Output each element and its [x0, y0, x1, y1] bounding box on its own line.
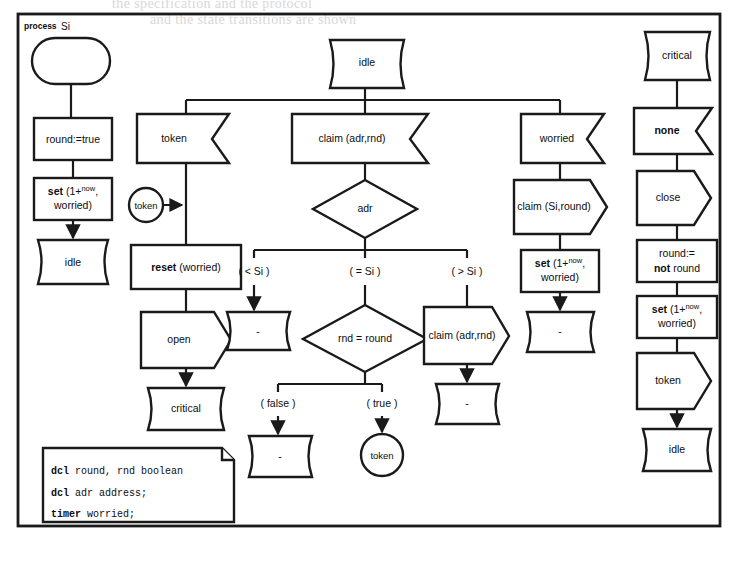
- input-worried-label: worried: [539, 132, 575, 144]
- state-critical-1-label: critical: [171, 402, 201, 414]
- save-token-label: token: [134, 200, 157, 211]
- save-token-true-label: token: [370, 450, 393, 461]
- state-critical-top-label: critical: [662, 49, 692, 61]
- branch-label-eq: ( = Si ): [349, 265, 380, 277]
- branch-label-gt: ( > Si ): [451, 265, 482, 277]
- diagram-canvas: the specification and the protocol and t…: [0, 0, 739, 561]
- start-symbol: [32, 38, 110, 84]
- decision-rnd-round-label: rnd = round: [338, 332, 392, 344]
- task-reset-worried-label: reset (worried): [151, 261, 220, 273]
- task-set-worried-3-line2: worried): [657, 317, 696, 329]
- input-claim-adr-rnd-label: claim (adr,rnd): [318, 132, 385, 144]
- state-idle-end-label: idle: [669, 443, 686, 455]
- branch-label-false: ( false ): [260, 397, 295, 409]
- state-dash-lt-label: -: [256, 325, 260, 337]
- input-token-label: token: [161, 132, 187, 144]
- state-dash-worried-label: -: [558, 325, 562, 337]
- process-name-label: Si: [61, 21, 70, 32]
- branch-label-lt: ( < Si ): [238, 265, 269, 277]
- output-claim-si-round-label: claim (Si,round): [517, 200, 591, 212]
- output-token-label: token: [655, 374, 681, 386]
- declaration-line-3: timer worried;: [51, 509, 135, 520]
- sdl-process-diagram: process Si round:=true set (1+now, worri…: [0, 0, 739, 561]
- output-claim-adr-rnd-label: claim (adr,rnd): [428, 329, 495, 341]
- task-round-true-label: round:=true: [46, 133, 100, 145]
- branch-label-true: ( true ): [367, 397, 398, 409]
- process-keyword-label: process: [24, 21, 57, 31]
- declaration-line-2: dcl adr address;: [51, 488, 147, 499]
- output-close-label: close: [656, 191, 681, 203]
- output-open-label: open: [167, 333, 191, 345]
- input-none-label: none: [654, 124, 679, 136]
- state-idle-1-label: idle: [65, 256, 82, 268]
- task-set-worried-2-line2: worried): [540, 271, 579, 283]
- decision-adr-label: adr: [357, 202, 373, 214]
- task-round-not-round-line1: round:=: [659, 247, 695, 259]
- state-idle-top-label: idle: [359, 56, 376, 68]
- declaration-line-1: dcl round, rnd boolean: [51, 466, 183, 477]
- task-set-worried-1-line2: worried): [53, 199, 92, 211]
- task-round-not-round-line2: not round: [654, 262, 700, 274]
- state-dash-false-label: -: [278, 450, 282, 462]
- state-dash-gt-label: -: [465, 397, 469, 409]
